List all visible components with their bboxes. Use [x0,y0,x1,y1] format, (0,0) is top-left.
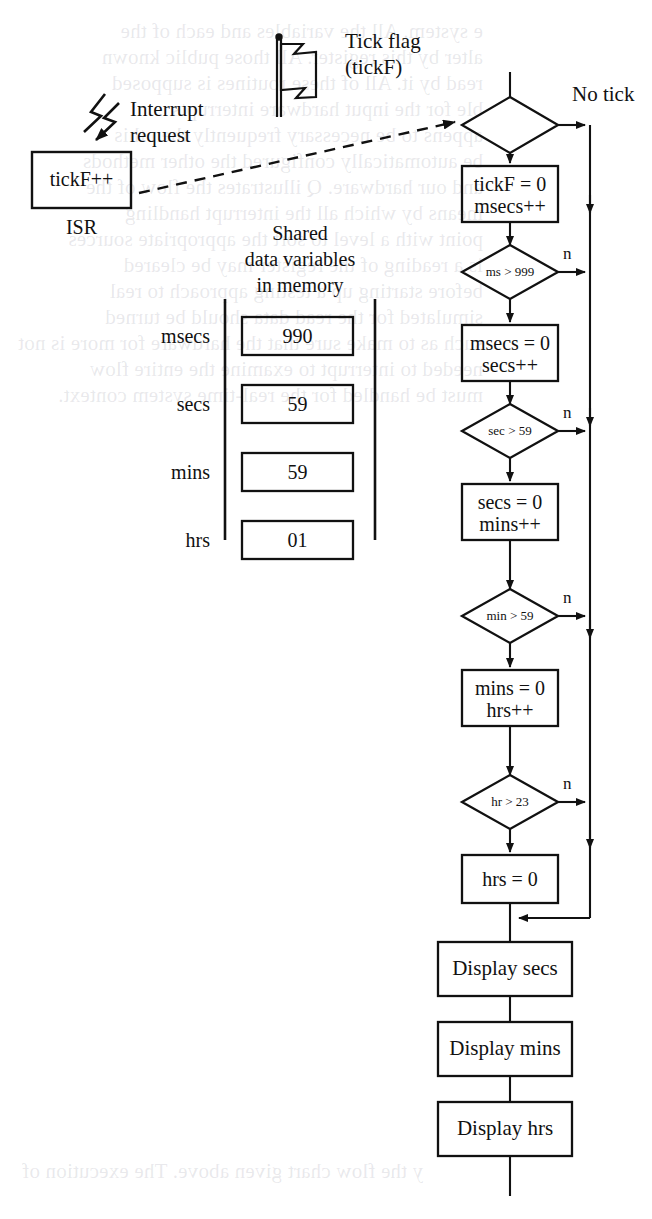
variable-name-msecs: msecs [100,325,210,347]
shared-memory-caption-line1: Shared [210,222,390,244]
flag-icon [276,34,316,117]
tick-decision-shape [462,97,558,153]
variable-name-secs: secs [100,393,210,415]
hrs-reset-line1: hrs = 0 [462,868,558,891]
interrupt-request-label-line1: Interrupt [130,98,203,122]
interrupt-arrow [84,94,119,140]
min-decision-label: min > 59 [462,609,558,624]
tick-flag-label-line2: (tickF) [345,56,402,80]
interrupt-request-label-line2: request [130,124,191,148]
secs-reset-line1: secs = 0 [462,491,558,514]
diagram-page: e system. All the variables and each of … [0,0,652,1219]
display-mins-label: Display mins [438,1037,572,1061]
display-hrs-label: Display hrs [438,1117,572,1141]
msecs-reset-line2: secs++ [462,354,558,377]
tickf-reset-line2: msecs++ [462,195,558,218]
secs-reset-line2: mins++ [462,513,558,536]
variable-value-mins: 59 [242,461,353,483]
ms-branch-label: n [563,244,572,263]
hr-decision-label: hr > 23 [462,795,558,810]
hr-branch-label: n [563,774,572,793]
isr-box-label: tickF++ [32,168,131,191]
no-tick-label: No tick [572,83,634,107]
ms-decision-label: ms > 999 [462,265,558,280]
sec-decision-label: sec > 59 [462,424,558,439]
variable-value-msecs: 990 [242,325,353,347]
mins-reset-line2: hrs++ [462,699,558,722]
tickf-reset-line1: tickF = 0 [462,173,558,196]
variable-value-hrs: 01 [242,529,353,551]
msecs-reset-line1: msecs = 0 [462,332,558,355]
shared-memory-caption-line3: in memory [210,274,390,296]
min-branch-label: n [563,588,572,607]
variable-name-mins: mins [100,461,210,483]
shared-memory-caption-line2: data variables [190,248,410,270]
variable-name-hrs: hrs [100,529,210,551]
tick-flag-label-line1: Tick flag [345,30,421,54]
display-secs-label: Display secs [438,957,572,981]
variable-value-secs: 59 [242,393,353,415]
isr-caption: ISR [32,216,131,238]
sec-branch-label: n [563,403,572,422]
mins-reset-line1: mins = 0 [462,677,558,700]
